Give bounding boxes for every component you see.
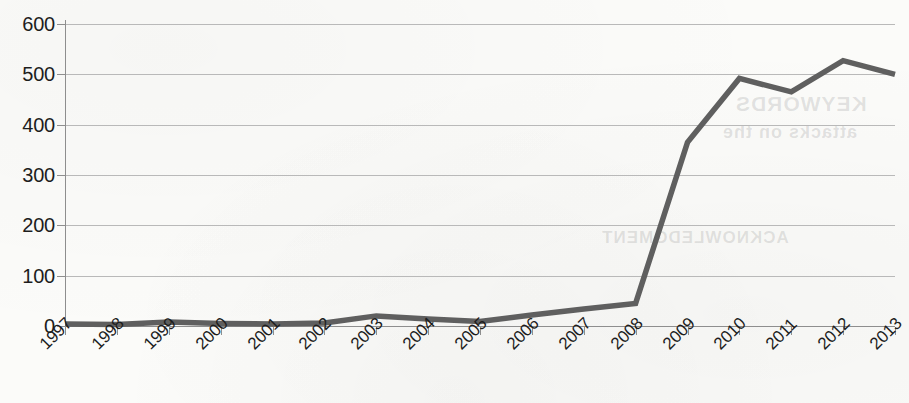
y-axis-tick: [57, 74, 66, 75]
series-line-publications: [65, 61, 895, 325]
line-chart-figure: KEYWORDS attacks on the ACKNOWLEDGMENT 0…: [0, 0, 909, 403]
y-axis-tick: [57, 175, 66, 176]
y-axis-tick: [57, 24, 66, 25]
y-axis-tick: [57, 125, 66, 126]
y-axis-tick: [57, 225, 66, 226]
y-axis-tick: [57, 276, 66, 277]
